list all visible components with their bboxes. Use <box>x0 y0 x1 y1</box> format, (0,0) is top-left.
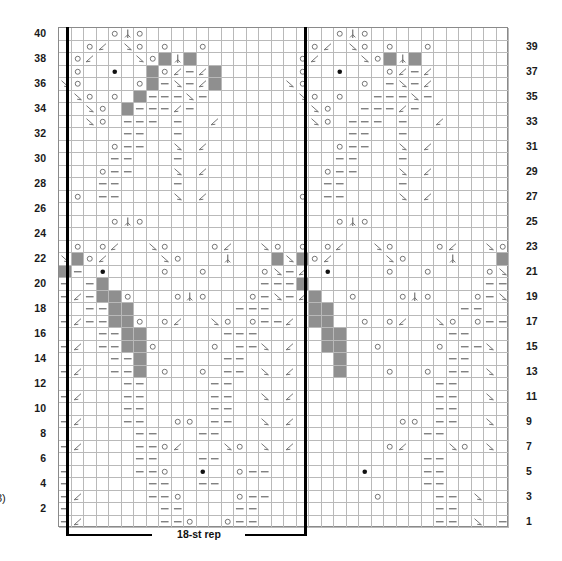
chart-cell <box>459 303 472 316</box>
chart-cell <box>134 78 147 91</box>
chart-cell <box>159 103 172 116</box>
chart-cell <box>197 466 210 479</box>
row-number-left: 2 <box>40 502 46 515</box>
row-number-right: 17 <box>526 315 538 328</box>
purl-dash-icon <box>172 178 184 190</box>
chart-cell <box>234 503 247 516</box>
chart-cell <box>234 378 247 391</box>
chart-cell <box>497 141 510 154</box>
chart-cell <box>472 328 485 341</box>
chart-cell <box>422 128 435 141</box>
k2tog-icon <box>322 253 334 265</box>
chart-cell <box>422 78 435 91</box>
chart-cell <box>197 41 210 54</box>
chart-cell <box>109 91 122 104</box>
yarn-over-icon <box>222 516 234 528</box>
chart-cell <box>459 453 472 466</box>
chart-cell <box>322 153 335 166</box>
chart-cell <box>134 441 147 454</box>
purl-dash-icon <box>434 428 446 440</box>
purl-dash-icon <box>134 378 146 390</box>
chart-cell <box>259 503 272 516</box>
chart-cell <box>447 316 460 329</box>
yarn-over-icon <box>472 316 484 328</box>
chart-cell <box>247 316 260 329</box>
chart-cell-no-stitch <box>97 291 110 304</box>
chart-cell <box>397 28 410 41</box>
chart-cell <box>284 403 297 416</box>
chart-cell <box>72 228 85 241</box>
chart-cell <box>134 266 147 279</box>
chart-cell <box>147 341 160 354</box>
chart-cell <box>309 341 322 354</box>
chart-cell <box>384 391 397 404</box>
chart-cell <box>72 91 85 104</box>
chart-cell <box>122 416 135 429</box>
chart-cell <box>359 216 372 229</box>
chart-cell <box>259 516 272 529</box>
chart-cell <box>484 453 497 466</box>
chart-cell <box>209 366 222 379</box>
chart-cell <box>372 278 385 291</box>
chart-cell <box>447 353 460 366</box>
chart-cell <box>134 191 147 204</box>
ssk-icon <box>384 253 396 265</box>
chart-cell <box>322 403 335 416</box>
chart-cell <box>184 341 197 354</box>
chart-cell <box>259 328 272 341</box>
k2tog-icon <box>172 316 184 328</box>
central-double-decrease-icon <box>347 216 359 228</box>
chart-cell <box>209 403 222 416</box>
yarn-over-icon <box>247 316 259 328</box>
chart-cell <box>384 328 397 341</box>
chart-cell <box>97 441 110 454</box>
chart-cell <box>109 28 122 41</box>
chart-cell <box>209 353 222 366</box>
chart-cell <box>172 91 185 104</box>
k2tog-icon <box>197 166 209 178</box>
chart-cell <box>359 266 372 279</box>
chart-cell <box>109 178 122 191</box>
chart-cell <box>97 378 110 391</box>
chart-cell <box>122 228 135 241</box>
chart-cell <box>234 116 247 129</box>
chart-cell <box>409 216 422 229</box>
chart-cell <box>459 128 472 141</box>
chart-cell <box>184 503 197 516</box>
chart-cell <box>172 416 185 429</box>
chart-cell <box>159 466 172 479</box>
chart-cell <box>272 141 285 154</box>
chart-cell <box>284 78 297 91</box>
chart-cell <box>384 441 397 454</box>
chart-cell <box>297 466 310 479</box>
chart-cell <box>234 478 247 491</box>
chart-cell <box>97 316 110 329</box>
chart-cell <box>247 391 260 404</box>
chart-cell <box>222 391 235 404</box>
ssk-icon <box>147 241 159 253</box>
chart-cell <box>222 116 235 129</box>
chart-cell <box>372 216 385 229</box>
ssk-icon <box>184 91 196 103</box>
chart-cell <box>434 28 447 41</box>
chart-cell <box>322 366 335 379</box>
chart-cell <box>247 28 260 41</box>
yarn-over-icon <box>397 416 409 428</box>
chart-cell <box>184 166 197 179</box>
chart-cell <box>72 316 85 329</box>
yarn-over-icon <box>197 366 209 378</box>
chart-cell <box>247 66 260 79</box>
chart-cell <box>322 191 335 204</box>
chart-cell <box>459 503 472 516</box>
chart-cell <box>422 66 435 79</box>
chart-cell <box>197 291 210 304</box>
chart-cell <box>147 53 160 66</box>
purl-dash-icon <box>422 428 434 440</box>
chart-cell <box>297 316 310 329</box>
chart-cell <box>97 228 110 241</box>
chart-cell <box>259 53 272 66</box>
purl-dash-icon <box>472 303 484 315</box>
ssk-icon <box>159 253 171 265</box>
purl-dash-icon <box>197 453 209 465</box>
chart-cell <box>459 203 472 216</box>
